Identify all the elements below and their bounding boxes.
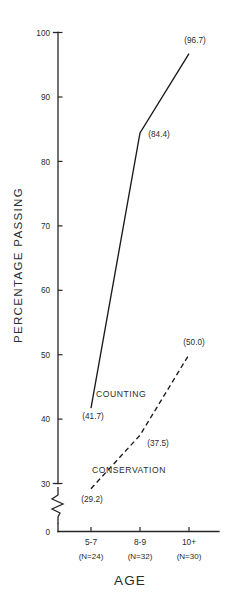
- x-tick-sublabel-8-9: (N=32): [128, 552, 153, 561]
- x-tick-sublabel-5-7: (N=24): [79, 552, 104, 561]
- series-label-conservation: CONSERVATION: [92, 465, 166, 475]
- y-axis-ticks: [58, 33, 63, 484]
- y-tick-label-30: 30: [41, 480, 51, 489]
- x-axis-title: AGE: [114, 573, 146, 588]
- y-tick-label-0: 0: [45, 528, 50, 537]
- percentage-passing-by-age-line-chart: 100 90 80 70 60 50 40 30 0 5-7 8-9 10+ (…: [0, 0, 225, 600]
- y-tick-label-90: 90: [41, 93, 51, 102]
- point-label-counting-5-7: (41.7): [82, 412, 104, 421]
- point-label-counting-10plus: (96.7): [184, 36, 206, 45]
- y-tick-label-40: 40: [41, 415, 51, 424]
- axis-break-zigzag-icon: [52, 487, 63, 524]
- x-tick-sublabel-10plus: (N=30): [177, 552, 202, 561]
- y-tick-label-50: 50: [41, 351, 51, 360]
- series-label-counting: COUNTING: [96, 389, 146, 399]
- y-tick-label-100: 100: [36, 29, 50, 38]
- point-label-conservation-10plus: (50.0): [183, 338, 205, 347]
- x-axis-ticks: [91, 527, 189, 532]
- series-line-counting: [91, 54, 189, 409]
- point-label-conservation-8-9: (37.5): [147, 439, 169, 448]
- x-tick-label-5-7: 5-7: [85, 537, 97, 547]
- y-tick-label-70: 70: [41, 222, 51, 231]
- x-tick-label-8-9: 8-9: [134, 537, 146, 547]
- chart-figure: 100 90 80 70 60 50 40 30 0 5-7 8-9 10+ (…: [0, 0, 225, 600]
- point-label-counting-8-9: (84.4): [148, 130, 170, 139]
- y-axis-title: PERCENTAGE PASSING: [12, 187, 24, 343]
- y-tick-label-80: 80: [41, 158, 51, 167]
- point-label-conservation-5-7: (29.2): [81, 495, 103, 504]
- x-tick-label-10plus: 10+: [182, 537, 196, 547]
- y-tick-label-60: 60: [41, 286, 51, 295]
